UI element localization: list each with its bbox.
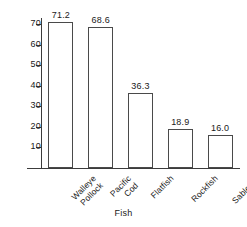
x-axis-tick-label: Sablefish bbox=[231, 174, 247, 206]
x-axis-tick-label-line: Rockfish bbox=[190, 174, 220, 204]
y-axis-tick-label: 30 bbox=[20, 101, 41, 110]
bar[interactable] bbox=[48, 22, 73, 168]
x-axis-tick-label-line: Flatfish bbox=[149, 174, 176, 201]
y-axis-tick-label: 10 bbox=[20, 142, 41, 151]
bar-group[interactable]: 16.0 bbox=[208, 18, 233, 168]
bar-value-label: 18.9 bbox=[171, 118, 189, 127]
bar-chart: 10203040506070 71.268.636.318.916.0 Wall… bbox=[0, 0, 247, 227]
x-axis-tick-label-line: Sablefish bbox=[231, 174, 247, 206]
plot-area: 71.268.636.318.916.0 bbox=[41, 18, 240, 168]
bar-value-label: 68.6 bbox=[92, 16, 110, 25]
bar[interactable] bbox=[128, 93, 153, 168]
y-axis-tick-row: 20 bbox=[0, 122, 41, 123]
x-axis-tick-label: Flatfish bbox=[149, 174, 176, 201]
bar[interactable] bbox=[208, 135, 233, 168]
bar-group[interactable]: 36.3 bbox=[128, 18, 153, 168]
x-axis-tick-label: PacificCod bbox=[108, 174, 140, 206]
x-axis-line bbox=[27, 168, 240, 169]
bar-group[interactable]: 71.2 bbox=[48, 18, 73, 168]
x-axis-title: Fish bbox=[0, 208, 247, 218]
y-axis-tick-label: 40 bbox=[20, 81, 41, 90]
bar[interactable] bbox=[168, 129, 193, 168]
bar[interactable] bbox=[88, 27, 113, 168]
x-axis-tick-label: Rockfish bbox=[190, 174, 220, 204]
y-axis-tick-label: 70 bbox=[20, 19, 41, 28]
y-axis-tick-row: 70 bbox=[0, 19, 41, 20]
y-axis-tick-row: 30 bbox=[0, 101, 41, 102]
y-axis-tick-row: 60 bbox=[0, 40, 41, 41]
bar-value-label: 36.3 bbox=[131, 82, 149, 91]
y-axis-tick-label: 50 bbox=[20, 60, 41, 69]
y-axis-tick-row: 50 bbox=[0, 60, 41, 61]
bar-group[interactable]: 68.6 bbox=[88, 18, 113, 168]
bar-group[interactable]: 18.9 bbox=[168, 18, 193, 168]
x-axis-tick-label: WalleyePollock bbox=[70, 174, 105, 209]
bar-value-label: 16.0 bbox=[211, 124, 229, 133]
y-axis-tick-label: 20 bbox=[20, 122, 41, 131]
y-axis-tick-label: 60 bbox=[20, 40, 41, 49]
y-axis-tick-row: 10 bbox=[0, 142, 41, 143]
y-axis-tick-row: 40 bbox=[0, 81, 41, 82]
bar-value-label: 71.2 bbox=[52, 11, 70, 20]
